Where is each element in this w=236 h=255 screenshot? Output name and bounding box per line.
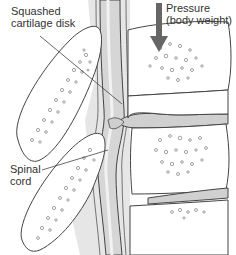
- vertebra-upper-right: [128, 21, 231, 96]
- spine-diagram: Squashed cartilage disk Pressure (body w…: [0, 0, 236, 255]
- label-pressure: Pressure (body weight): [166, 2, 232, 26]
- spine-illustration: [0, 0, 236, 255]
- label-spinal-cord: Spinal cord: [10, 163, 41, 187]
- vertebra-body-right: [131, 124, 230, 194]
- label-squashed-disk: Squashed cartilage disk: [11, 5, 75, 29]
- vertebra-lower-right: [130, 200, 228, 255]
